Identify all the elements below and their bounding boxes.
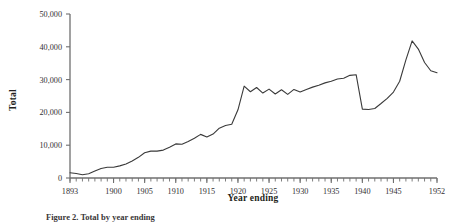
x-tick-label: 1935 (323, 187, 339, 196)
x-axis-title: Year ending (228, 193, 279, 203)
x-tick-label: 1915 (199, 187, 215, 196)
figure-caption: Figure 2. Total by year ending (46, 211, 436, 223)
y-tick-label: 50,000 (39, 10, 62, 19)
x-tick-label: 1910 (168, 187, 184, 196)
x-tick-label: 1930 (292, 187, 308, 196)
y-tick-label: 20,000 (39, 108, 62, 117)
x-tick-label: 1900 (105, 187, 121, 196)
x-tick-label: 1905 (136, 187, 152, 196)
y-tick-label: 10,000 (39, 141, 62, 150)
x-tick-label: 1945 (385, 187, 401, 196)
figure-container: Total 010,00020,00030,00040,00050,000 18… (0, 0, 452, 223)
x-tick-label: 1940 (354, 187, 370, 196)
y-axis-title: Total (8, 89, 18, 111)
y-tick-label: 0 (58, 174, 62, 183)
y-tick-label: 40,000 (39, 43, 62, 52)
line-chart: Total 010,00020,00030,00040,00050,000 18… (0, 0, 452, 223)
x-tick-label: 1893 (62, 187, 78, 196)
y-tick-label: 30,000 (39, 76, 62, 85)
x-tick-label: 1952 (429, 187, 445, 196)
y-axis-title-group: Total (8, 89, 18, 111)
